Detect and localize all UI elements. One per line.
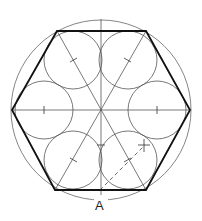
hexagon-circles-diagram [0,0,202,221]
point-label-a: A [95,199,104,212]
dashed-radius-line [100,145,145,190]
tick-top-left [70,58,77,62]
